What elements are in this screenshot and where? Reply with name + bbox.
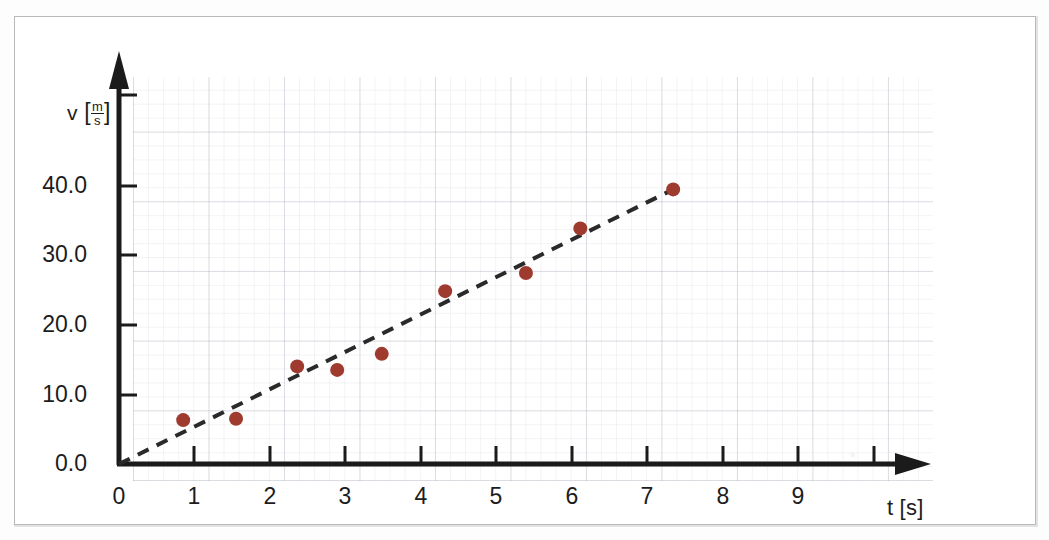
data-point [573, 221, 587, 235]
x-tick-label-4: 4 [399, 483, 443, 510]
x-tick-label-1: 1 [172, 483, 216, 510]
data-point [176, 413, 190, 427]
x-tick-marks [119, 446, 874, 464]
y-axis-label: v [ m s ] [67, 99, 111, 128]
x-tick-label-6: 6 [550, 483, 594, 510]
data-point [229, 412, 243, 426]
data-point [519, 266, 533, 280]
y-tick-label-40: 40.0 [0, 172, 87, 199]
data-point [438, 284, 452, 298]
data-point [666, 182, 680, 196]
x-tick-label-2: 2 [248, 483, 292, 510]
figure-page: v [ m s ] t [s] 40.0 30.0 20.0 10.0 0.0 … [0, 0, 1049, 540]
y-tick-label-30: 30.0 [0, 241, 87, 268]
y-tick-label-20: 20.0 [0, 311, 87, 338]
y-tick-label-10: 10.0 [0, 381, 87, 408]
x-tick-label-0: 0 [97, 483, 141, 510]
y-tick-label-0: 0.0 [0, 450, 87, 477]
figure-frame: v [ m s ] t [s] 40.0 30.0 20.0 10.0 0.0 … [14, 16, 1036, 525]
paper-smudge-mark: ·s· [848, 449, 870, 461]
data-points [176, 182, 680, 427]
trendline-dashed [119, 189, 673, 464]
x-tick-label-3: 3 [323, 483, 367, 510]
y-axis-unit-denominator: s [91, 114, 104, 127]
y-axis-unit-fraction: m s [91, 100, 104, 128]
x-axis [117, 453, 931, 475]
data-point [330, 363, 344, 377]
y-axis-symbol: v [67, 101, 78, 124]
data-point [290, 359, 304, 373]
data-point [375, 347, 389, 361]
y-axis [109, 51, 129, 465]
x-tick-label-7: 7 [625, 483, 669, 510]
x-axis-label: t [s] [887, 495, 923, 521]
x-tick-label-9: 9 [776, 483, 820, 510]
x-tick-label-5: 5 [474, 483, 518, 510]
x-tick-label-8: 8 [701, 483, 745, 510]
y-axis-unit-numerator: m [91, 100, 104, 114]
y-tick-marks [119, 95, 137, 464]
chart-canvas [15, 17, 1037, 526]
